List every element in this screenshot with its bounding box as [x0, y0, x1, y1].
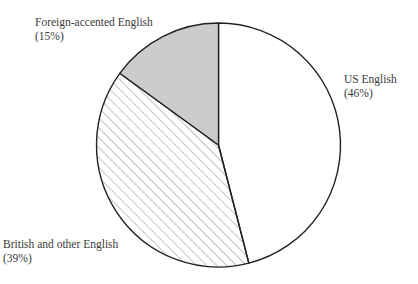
label-british-english: British and other English (39%) — [3, 237, 118, 265]
slice-percent: (46%) — [344, 86, 397, 100]
label-us-english: US English (46%) — [344, 72, 397, 100]
label-foreign-accented-english: Foreign-accented English (15%) — [35, 15, 153, 43]
slice-name: Foreign-accented English — [35, 15, 153, 29]
slice-percent: (39%) — [3, 251, 118, 265]
slice-percent: (15%) — [35, 29, 153, 43]
slice-name: British and other English — [3, 237, 118, 251]
slice-name: US English — [344, 72, 397, 86]
